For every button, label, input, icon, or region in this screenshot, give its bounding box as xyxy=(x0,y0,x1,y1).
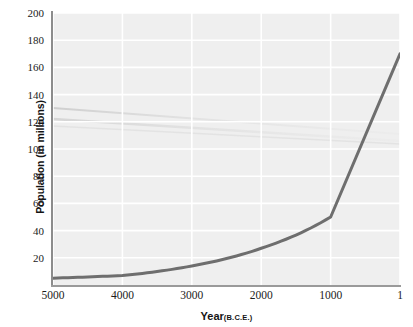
y-tick-label: 120 xyxy=(0,116,44,128)
x-axis-tick-labels: 500040003000200010001 xyxy=(0,288,413,306)
x-tick-label: 1000 xyxy=(301,288,361,302)
population-chart-figure: Population (in millions) 204060801001201… xyxy=(0,0,413,327)
y-axis-tick-labels: 20406080100120140160180200 xyxy=(0,0,50,327)
y-tick-label: 180 xyxy=(0,34,44,46)
y-tick-label: 140 xyxy=(0,89,44,101)
x-axis-title: Year(B.C.E.) xyxy=(53,306,400,324)
chart-canvas xyxy=(53,13,400,285)
y-tick-label: 200 xyxy=(0,7,44,19)
y-tick-label: 20 xyxy=(0,252,44,264)
y-tick-label: 100 xyxy=(0,143,44,155)
x-tick-label: 3000 xyxy=(162,288,222,302)
x-axis-title-unit: (B.C.E.) xyxy=(224,313,253,322)
x-tick-label: 5000 xyxy=(23,288,83,302)
y-tick-label: 160 xyxy=(0,61,44,73)
scan-artifacts xyxy=(53,108,400,144)
gridlines xyxy=(53,13,400,285)
plot-area xyxy=(53,13,400,285)
y-tick-label: 60 xyxy=(0,197,44,209)
x-tick-label: 2000 xyxy=(231,288,291,302)
x-axis-title-main: Year xyxy=(201,310,224,322)
x-tick-label: 1 xyxy=(370,288,413,302)
population-line-series xyxy=(53,54,400,278)
y-tick-label: 80 xyxy=(0,170,44,182)
y-axis-spine xyxy=(51,11,53,287)
x-axis-spine xyxy=(51,285,401,287)
y-tick-label: 40 xyxy=(0,225,44,237)
x-tick-label: 4000 xyxy=(92,288,152,302)
